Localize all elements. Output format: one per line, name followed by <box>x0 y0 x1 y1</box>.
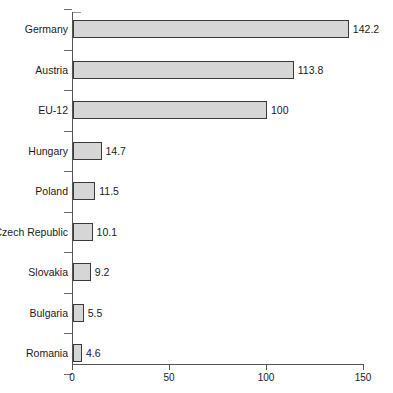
x-axis-tick <box>266 364 267 370</box>
bar-value-label: 14.7 <box>106 142 126 161</box>
frame-top-stub <box>72 12 81 13</box>
bar-row: Poland11.5 <box>0 182 393 201</box>
bar-value-label: 11.5 <box>99 182 119 201</box>
x-axis-tick-label: 50 <box>163 372 174 384</box>
bar-row: Hungary14.7 <box>0 142 393 161</box>
category-label: Bulgaria <box>29 304 68 323</box>
bar <box>73 223 93 241</box>
bar <box>73 101 267 119</box>
x-axis-tick-label: 0 <box>69 372 75 384</box>
y-axis-tick <box>64 90 72 91</box>
bar-value-label: 113.8 <box>298 61 324 80</box>
bar <box>73 263 91 281</box>
x-axis-tick-label: 100 <box>258 372 275 384</box>
x-axis-tick-label: 150 <box>355 372 372 384</box>
bar-row: EU-12100 <box>0 101 393 120</box>
bar-value-label: 5.5 <box>88 304 103 323</box>
category-label: EU-12 <box>38 101 68 120</box>
bar-row: Germany142.2 <box>0 20 393 39</box>
bar-value-label: 142.2 <box>353 20 379 39</box>
bar <box>73 61 294 79</box>
bar-chart: Germany142.2Austria113.8EU-12100Hungary1… <box>0 0 393 393</box>
bar-value-label: 100 <box>271 101 289 120</box>
category-label: Romania <box>26 344 68 363</box>
x-axis-tick <box>72 364 73 370</box>
y-axis-tick <box>64 333 72 334</box>
x-axis-line <box>72 364 364 365</box>
bar-row: Austria113.8 <box>0 61 393 80</box>
bar-value-label: 9.2 <box>95 263 110 282</box>
y-axis-tick <box>64 9 72 10</box>
y-axis-tick <box>64 252 72 253</box>
category-label: Poland <box>35 182 68 201</box>
bar-value-label: 10.1 <box>97 223 117 242</box>
y-axis-tick <box>64 131 72 132</box>
y-axis-tick <box>64 293 72 294</box>
bar <box>73 20 349 38</box>
category-label: Slovakia <box>28 263 68 282</box>
x-axis-tick <box>169 364 170 370</box>
bar-row: Slovakia9.2 <box>0 263 393 282</box>
category-label: Austria <box>35 61 68 80</box>
bar <box>73 344 82 362</box>
y-axis-tick <box>64 171 72 172</box>
category-label: Hungary <box>28 142 68 161</box>
bar <box>73 142 102 160</box>
category-label: Germany <box>25 20 68 39</box>
x-axis-tick <box>363 364 364 370</box>
bar <box>73 304 84 322</box>
bar <box>73 182 95 200</box>
y-axis-tick <box>64 212 72 213</box>
bar-row: Bulgaria5.5 <box>0 304 393 323</box>
category-label: Czech Republic <box>0 223 68 242</box>
bar-row: Czech Republic10.1 <box>0 223 393 242</box>
y-axis-tick <box>64 50 72 51</box>
bar-row: Romania4.6 <box>0 344 393 363</box>
bar-value-label: 4.6 <box>86 344 101 363</box>
